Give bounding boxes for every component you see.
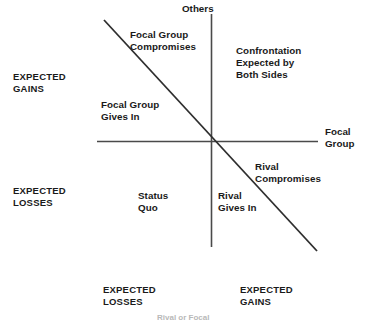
- axis-label-expected-gains-vertical: EXPECTED GAINS: [13, 71, 66, 94]
- figure-caption-cropped: Rival or Focal: [157, 313, 209, 321]
- region-label-rival-gives-in: Rival Gives In: [218, 190, 257, 214]
- axis-label-expected-gains-horizontal: EXPECTED GAINS: [240, 284, 293, 307]
- region-label-rival-compromises: Rival Compromises: [255, 161, 321, 185]
- region-label-focal-group-gives-in: Focal Group Gives In: [101, 99, 159, 123]
- conflict-quadrant-diagram: Others Focal Group EXPECTED GAINS EXPECT…: [0, 0, 367, 321]
- region-label-confrontation-expected-by-both-sides: Confrontation Expected by Both Sides: [236, 45, 301, 81]
- region-label-focal-group-compromises: Focal Group Compromises: [130, 29, 196, 53]
- axis-label-expected-losses-vertical: EXPECTED LOSSES: [13, 185, 66, 208]
- axis-label-expected-losses-horizontal: EXPECTED LOSSES: [103, 284, 156, 307]
- region-label-status-quo: Status Quo: [138, 190, 168, 214]
- axis-label-others: Others: [182, 3, 214, 15]
- axis-label-focal-group: Focal Group: [325, 126, 354, 150]
